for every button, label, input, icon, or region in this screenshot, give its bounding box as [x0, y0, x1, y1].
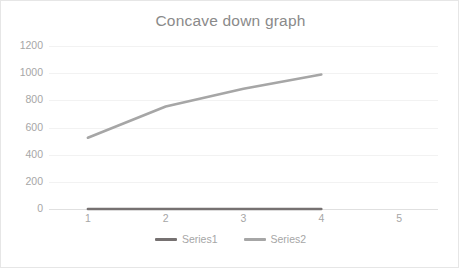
y-axis-tick-label: 800 — [3, 93, 43, 105]
x-axis-tick-label: 1 — [68, 212, 108, 224]
series-line — [88, 75, 321, 138]
x-axis-tick-label: 2 — [146, 212, 186, 224]
y-axis-tick-label: 600 — [3, 121, 43, 133]
chart-title: Concave down graph — [1, 12, 459, 30]
series-lines — [49, 46, 438, 209]
y-axis-tick-label: 1200 — [3, 39, 43, 51]
x-axis-tick-label: 3 — [224, 212, 264, 224]
legend-swatch-icon — [155, 238, 177, 241]
y-axis-tick-label: 0 — [3, 202, 43, 214]
y-axis-tick-label: 200 — [3, 175, 43, 187]
y-axis-tick-label: 400 — [3, 148, 43, 160]
x-axis-tick-label: 4 — [301, 212, 341, 224]
x-axis-tick-label: 5 — [379, 212, 419, 224]
chart-container: Concave down graph 020040060080010001200… — [0, 0, 459, 268]
y-axis-tick-labels: 020040060080010001200 — [1, 46, 43, 209]
legend-swatch-icon — [244, 238, 266, 241]
chart-legend: Series1Series2 — [1, 233, 459, 245]
legend-label: Series2 — [271, 233, 307, 245]
y-axis-tick-label: 1000 — [3, 66, 43, 78]
legend-item[interactable]: Series2 — [244, 233, 307, 245]
plot-area — [49, 46, 438, 209]
x-axis-tick-labels: 12345 — [49, 212, 438, 228]
legend-item[interactable]: Series1 — [155, 233, 218, 245]
legend-label: Series1 — [182, 233, 218, 245]
